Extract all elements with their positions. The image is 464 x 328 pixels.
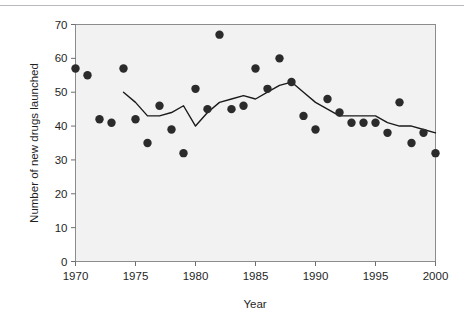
scatter-point: [359, 118, 367, 126]
x-axis-tick-labels: 1970197519801985199019952000: [63, 270, 449, 282]
x-tick-label: 1990: [303, 270, 329, 282]
scatter-point: [203, 105, 211, 113]
x-tick-label: 1980: [183, 270, 209, 282]
scatter-point: [395, 98, 403, 106]
scatter-point: [347, 118, 355, 126]
scatter-point: [95, 115, 103, 123]
scatter-point: [215, 30, 223, 38]
scatter-point: [239, 102, 247, 110]
scatter-point: [107, 118, 115, 126]
scatter-point: [407, 139, 415, 147]
scatter-point: [263, 85, 271, 93]
y-tick-label: 10: [55, 222, 68, 234]
scatter-point: [431, 149, 439, 157]
y-tick-label: 50: [55, 86, 68, 98]
scatter-point: [71, 64, 79, 72]
x-tick-label: 1975: [123, 270, 149, 282]
y-tick-label: 70: [55, 19, 68, 31]
scatter-point: [83, 71, 91, 79]
scatter-point: [371, 118, 379, 126]
plot-area-background: [76, 25, 436, 262]
scatter-point: [335, 108, 343, 116]
scatter-point: [191, 85, 199, 93]
x-axis-title: Year: [243, 298, 266, 310]
figure-root: 010203040506070 197019751980198519901995…: [0, 0, 464, 328]
y-tick-label: 20: [55, 188, 68, 200]
scatter-point: [143, 139, 151, 147]
scatter-point: [287, 78, 295, 86]
x-axis-ticks: [76, 262, 436, 267]
scatter-point: [299, 112, 307, 120]
x-tick-label: 1985: [243, 270, 269, 282]
y-axis-title: Number of new drugs launched: [28, 63, 40, 223]
x-tick-label: 2000: [423, 270, 449, 282]
scatter-point: [383, 129, 391, 137]
y-axis-ticks: [71, 25, 76, 262]
scatter-point: [251, 64, 259, 72]
scatter-point: [419, 129, 427, 137]
scatter-point: [179, 149, 187, 157]
y-axis-tick-labels: 010203040506070: [55, 19, 68, 268]
y-tick-label: 60: [55, 52, 68, 64]
scatter-point: [167, 125, 175, 133]
scatter-point: [227, 105, 235, 113]
scatter-chart: 010203040506070 197019751980198519901995…: [0, 0, 464, 328]
scatter-point: [131, 115, 139, 123]
y-tick-label: 40: [55, 120, 68, 132]
scatter-point: [155, 102, 163, 110]
y-tick-label: 0: [61, 256, 67, 268]
scatter-point: [275, 54, 283, 62]
x-tick-label: 1995: [363, 270, 389, 282]
scatter-point: [323, 95, 331, 103]
scatter-point: [119, 64, 127, 72]
x-tick-label: 1970: [63, 270, 89, 282]
scatter-point: [311, 125, 319, 133]
y-tick-label: 30: [55, 154, 68, 166]
